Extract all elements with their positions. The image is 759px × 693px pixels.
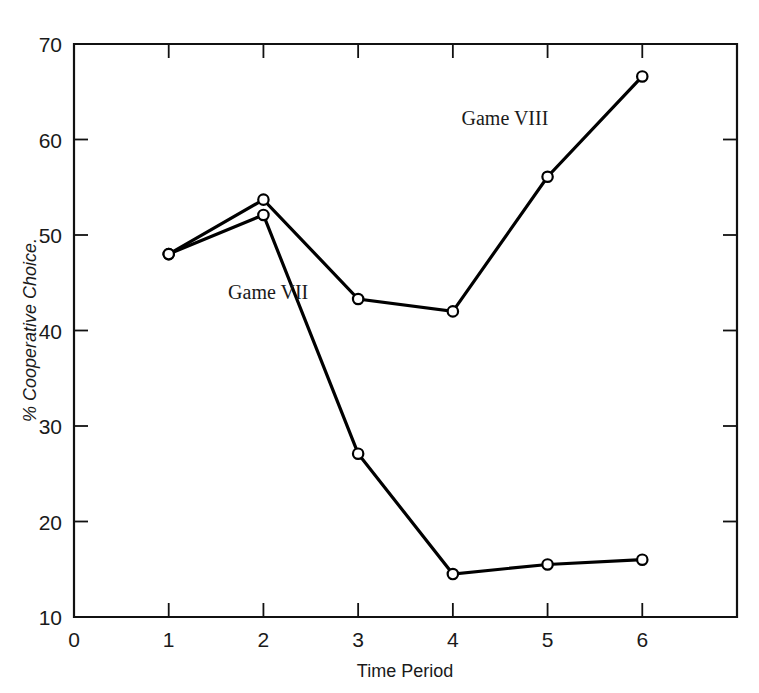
x-tick-label: 5 xyxy=(542,628,554,651)
data-point-marker xyxy=(258,194,268,204)
series-line xyxy=(169,76,643,311)
data-point-marker xyxy=(353,448,363,458)
x-tick-label: 0 xyxy=(68,628,80,651)
series-line xyxy=(169,215,643,574)
series-game-vii xyxy=(164,210,648,579)
data-point-marker xyxy=(164,249,174,259)
series-annotation-game-viii: Game VIII xyxy=(462,107,549,129)
y-tick-label: 40 xyxy=(39,320,62,343)
data-point-marker xyxy=(542,172,552,182)
y-tick-label: 60 xyxy=(39,129,62,152)
data-point-marker xyxy=(258,210,268,220)
series-game-viii xyxy=(164,71,648,316)
series-group xyxy=(164,71,648,579)
plot-frame xyxy=(74,44,737,617)
x-tick-label: 2 xyxy=(258,628,270,651)
y-axis-title: % Cooperative Choice. xyxy=(20,238,40,422)
data-point-marker xyxy=(353,294,363,304)
line-chart: 10203040506070 0123456 Game VIIGame VIII… xyxy=(0,0,759,693)
y-tick-label: 10 xyxy=(39,606,62,629)
axis-frame-path xyxy=(74,44,737,617)
x-tick-label: 6 xyxy=(636,628,648,651)
data-point-marker xyxy=(542,559,552,569)
chart-figure: 10203040506070 0123456 Game VIIGame VIII… xyxy=(0,0,759,693)
y-tick-label: 20 xyxy=(39,511,62,534)
top-axis-ticks xyxy=(169,44,643,58)
x-tick-label: 1 xyxy=(163,628,175,651)
y-tick-label: 70 xyxy=(39,33,62,56)
y-axis-ticks xyxy=(74,140,88,522)
x-tick-label: 4 xyxy=(447,628,459,651)
data-point-marker xyxy=(637,71,647,81)
x-axis-title: Time Period xyxy=(357,661,453,681)
data-point-marker xyxy=(637,555,647,565)
data-point-marker xyxy=(448,306,458,316)
x-tick-label: 3 xyxy=(352,628,364,651)
x-tick-labels: 0123456 xyxy=(68,628,648,651)
series-annotation-game-vii: Game VII xyxy=(228,281,308,303)
x-axis-ticks xyxy=(169,603,643,617)
y-tick-labels: 10203040506070 xyxy=(39,33,62,629)
right-axis-ticks xyxy=(723,140,737,522)
series-annotations: Game VIIGame VIII xyxy=(228,107,548,303)
data-point-marker xyxy=(448,569,458,579)
y-tick-label: 30 xyxy=(39,415,62,438)
y-tick-label: 50 xyxy=(39,224,62,247)
